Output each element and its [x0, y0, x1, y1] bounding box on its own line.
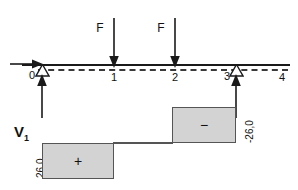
beam-line-dashed [38, 69, 288, 71]
figure-canvas: F F 0 1 2 3 4 [0, 0, 298, 190]
shear-sign-positive: + [68, 154, 88, 168]
shear-label-main: V [14, 123, 24, 140]
shear-label-subscript: 1 [24, 133, 29, 143]
shear-value-negative: -26,0 [245, 133, 255, 143]
load-arrow-1 [106, 18, 122, 70]
reaction-arrow-left [35, 74, 49, 118]
shear-diagram-label: V1 [14, 124, 29, 143]
axis-tick-2: 2 [169, 71, 181, 83]
axis-tick-1: 1 [108, 71, 120, 83]
shear-zero-line [113, 142, 173, 144]
shear-value-negative-wrap: -26,0 [245, 143, 255, 144]
load-label-1: F [92, 22, 108, 34]
shear-sign-negative: − [194, 118, 214, 132]
load-label-2: F [153, 22, 169, 34]
load-arrow-2 [167, 18, 183, 70]
beam-line-solid [22, 64, 290, 66]
axis-tick-4: 4 [276, 71, 288, 83]
